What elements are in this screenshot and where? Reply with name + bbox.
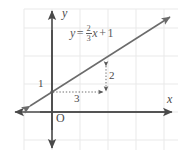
run-label: 3 bbox=[74, 93, 80, 104]
equation-constant: 1 bbox=[107, 26, 113, 40]
equation-plus: + bbox=[99, 26, 106, 40]
equation-label: y=23x+1 bbox=[70, 24, 113, 42]
y-axis-label: y bbox=[62, 7, 67, 19]
equation-lhs: y bbox=[70, 26, 75, 40]
y-intercept-label: 1 bbox=[38, 78, 44, 89]
equation-denominator: 3 bbox=[86, 34, 92, 43]
y-intercept-point bbox=[50, 90, 53, 93]
equation-fraction: 23 bbox=[86, 24, 92, 42]
x-axis-label: x bbox=[167, 93, 172, 105]
origin-label: O bbox=[56, 112, 65, 124]
rise-label: 2 bbox=[109, 70, 115, 81]
equation-variable: x bbox=[92, 26, 97, 40]
graph-figure: y=23x+1 y x O 1 3 2 bbox=[0, 0, 188, 156]
equation-equals: = bbox=[77, 26, 84, 40]
